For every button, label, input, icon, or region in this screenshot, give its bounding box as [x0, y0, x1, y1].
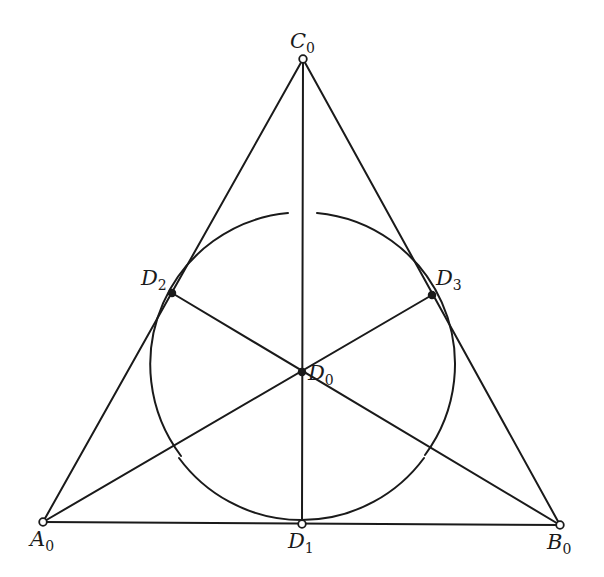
point-a0 — [39, 518, 47, 526]
incircle-triangle-diagram: C0 D2 D3 D0 A0 D1 B0 — [0, 0, 604, 577]
cevian-a0-d3 — [43, 295, 432, 522]
point-d0 — [299, 369, 306, 376]
label-d0: D0 — [307, 361, 334, 388]
label-a0: A0 — [28, 527, 54, 554]
incircle-arc-right — [317, 213, 455, 455]
point-c0 — [299, 55, 307, 63]
label-d1: D1 — [287, 529, 314, 556]
point-d2 — [169, 290, 176, 297]
label-b0: B0 — [546, 530, 571, 557]
cevian-c0-d1 — [302, 59, 303, 524]
label-c0: C0 — [290, 29, 315, 56]
point-d1 — [298, 520, 306, 528]
cevian-b0-d2 — [172, 293, 560, 525]
label-d2: D2 — [140, 266, 167, 293]
point-d3 — [429, 292, 436, 299]
label-d3: D3 — [435, 266, 462, 293]
point-b0 — [556, 521, 564, 529]
